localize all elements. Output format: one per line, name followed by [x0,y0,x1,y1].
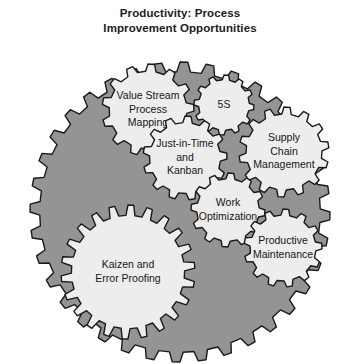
gear-label-work-optimization-line-2: Optimization [199,210,258,222]
gear-label-kaizen-and-error-proofing-line-2: Error Proofing [95,272,161,284]
gear-label-value-stream-process-mapping-line-1: Value Stream [117,89,180,101]
gear-label-just-in-time-and-kanban-line-1: Just-in-Time [156,137,214,149]
gear-label-value-stream-process-mapping-line-3: Mapping [128,116,168,128]
gear-label-productive-maintenance-line-1: Productive [258,234,308,246]
gear-label-just-in-time-and-kanban-line-3: Kanban [167,164,203,176]
gear-label-supply-chain-management-line-1: Supply [268,131,301,143]
gear-label-supply-chain-management-line-3: Management [253,158,314,170]
gear-label-five-s-line-1: 5S [218,98,231,110]
diagram-canvas: Productivity: Process Improvement Opport… [0,0,360,364]
gear-label-just-in-time-and-kanban-line-2: and [176,151,194,163]
gear-label-supply-chain-management-line-2: Chain [270,145,298,157]
gear-label-value-stream-process-mapping-line-2: Process [129,103,167,115]
gear-label-productive-maintenance-line-2: Maintenance [253,248,313,260]
gear-diagram: Value StreamProcessMapping5SJust-in-Time… [0,0,360,364]
gear-label-work-optimization-line-1: Work [216,196,241,208]
gear-label-kaizen-and-error-proofing-line-1: Kaizen and [102,258,155,270]
